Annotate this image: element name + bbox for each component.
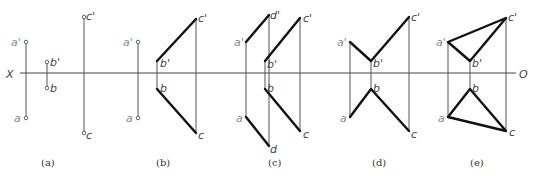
- point-b-prime: [45, 60, 49, 64]
- panel-d: a' a b' b c' c (d): [337, 11, 420, 168]
- label-a: a: [126, 112, 133, 125]
- line-b-c: [157, 89, 196, 133]
- label-c: c: [198, 129, 204, 142]
- triangle-a-prime-b-prime-c-prime: [448, 18, 506, 61]
- label-a-prime: a': [234, 36, 244, 49]
- caption-e: (e): [470, 157, 484, 168]
- label-c-prime: c': [303, 12, 312, 25]
- label-a-prime: a': [11, 36, 21, 49]
- label-b: b: [267, 82, 274, 95]
- caption-c: (c): [268, 157, 282, 168]
- label-c: c: [411, 128, 417, 141]
- caption-a: (a): [41, 157, 55, 168]
- line-a-prime-d-prime: [246, 15, 269, 42]
- label-a: a: [236, 112, 243, 125]
- label-c-prime: c': [508, 11, 517, 24]
- line-a-d: [246, 117, 269, 146]
- line-a-prime-b-prime-c-prime: [350, 17, 409, 61]
- label-b-prime: b': [267, 58, 277, 71]
- label-c: c: [509, 126, 515, 139]
- line-a-b-c: [350, 89, 409, 131]
- label-a: a: [438, 112, 445, 125]
- label-a: a: [340, 112, 347, 125]
- label-b-prime: b': [472, 57, 482, 70]
- label-c: c: [303, 128, 309, 141]
- label-b: b: [160, 82, 167, 95]
- label-b: b: [50, 82, 57, 95]
- panel-a: a' a b' b c' c (a): [11, 10, 95, 168]
- label-b: b: [472, 82, 479, 95]
- line-b-c: [265, 89, 300, 131]
- label-c-prime: c': [86, 10, 95, 23]
- axis-label-o: O: [519, 68, 528, 81]
- label-a-prime: a': [337, 36, 347, 49]
- label-b-prime: b': [160, 57, 170, 70]
- label-d-prime: d': [270, 9, 280, 22]
- point-b: [45, 86, 49, 90]
- label-d: d: [270, 143, 278, 156]
- point-a-prime: [24, 40, 28, 44]
- axis-label-x: X: [5, 68, 14, 81]
- panel-e: a' a b' b c' c (e): [436, 11, 517, 168]
- label-a-prime: a': [436, 36, 446, 49]
- projection-diagram: X O a' a b' b c' c (a) a' a b' b c' c (b…: [0, 0, 536, 176]
- line-b-prime-c-prime: [265, 18, 300, 61]
- point-a: [24, 116, 28, 120]
- caption-d: (d): [372, 157, 386, 168]
- point-a: [136, 116, 140, 120]
- panel-b: a' a b' b c' c (b): [123, 12, 207, 168]
- label-a: a: [14, 112, 21, 125]
- label-a-prime: a': [123, 36, 133, 49]
- label-b-prime: b': [373, 57, 383, 70]
- triangle-a-b-c: [448, 89, 506, 131]
- label-b: b: [373, 82, 380, 95]
- label-c-prime: c': [198, 12, 207, 25]
- panel-c: a' a d' d b' b c' c (c): [234, 9, 312, 168]
- label-c-prime: c': [411, 11, 420, 24]
- label-b-prime: b': [50, 56, 60, 69]
- caption-b: (b): [156, 157, 170, 168]
- label-c: c: [86, 129, 92, 142]
- point-a-prime: [136, 40, 140, 44]
- line-b-prime-c-prime: [157, 19, 196, 61]
